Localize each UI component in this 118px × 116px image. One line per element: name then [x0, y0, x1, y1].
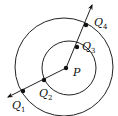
label-P: P: [72, 66, 81, 79]
geometry-diagram: P Q1 Q2 Q3 Q4: [0, 0, 118, 116]
point-P: [64, 66, 68, 70]
outer-circle: [15, 18, 113, 116]
point-Q4: [84, 23, 88, 27]
label-Q3: Q3: [82, 40, 96, 55]
ray-upper-segment: [66, 5, 92, 68]
point-Q1: [21, 89, 25, 93]
point-Q2: [42, 78, 46, 82]
label-Q4: Q4: [94, 16, 108, 31]
label-Q1: Q1: [12, 99, 26, 114]
point-Q3: [75, 45, 79, 49]
label-Q2: Q2: [39, 87, 53, 102]
